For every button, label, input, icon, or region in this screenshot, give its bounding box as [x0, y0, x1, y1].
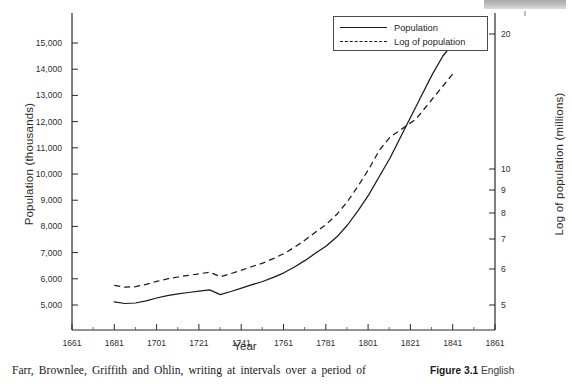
- caption-figure-rest: English: [481, 365, 514, 376]
- figure-page: 15,000 14,000 13,000 12,000 11,000 10,00…: [0, 0, 572, 384]
- right-tick-label: 8: [501, 208, 506, 218]
- chart-figure: 15,000 14,000 13,000 12,000 11,000 10,00…: [0, 0, 572, 358]
- legend-solid-line-swatch: [340, 23, 387, 32]
- left-axis-ticks: [72, 43, 78, 305]
- left-tick-label: 5,000: [18, 300, 62, 310]
- series-population-line: [114, 43, 453, 304]
- legend-item-log-population: Log of population: [340, 35, 465, 48]
- left-tick-label: 15,000: [18, 38, 62, 48]
- left-tick-label: 6,000: [18, 274, 62, 284]
- right-tick-label: 10: [501, 164, 511, 174]
- series-log-population-line: [114, 73, 453, 287]
- right-tick-label: 5: [501, 300, 506, 310]
- chart-plot: [0, 0, 572, 358]
- right-axis-ticks: [489, 34, 495, 305]
- caption-figure-number: Figure 3.1: [430, 365, 478, 376]
- x-axis-title: Year: [0, 340, 490, 352]
- right-tick-label: 6: [501, 264, 506, 274]
- right-tick-label: 7: [501, 234, 506, 244]
- legend-item-population: Population: [340, 21, 438, 34]
- legend-label: Log of population: [394, 37, 465, 47]
- chart-legend: Population Log of population: [333, 16, 488, 51]
- figure-caption: Farr, Brownlee, Griffith and Ohlin, writ…: [0, 362, 572, 384]
- legend-dashed-line-swatch: [340, 37, 387, 46]
- right-tick-label: 20: [501, 29, 511, 39]
- y-axis-title-left: Population (thousands): [23, 69, 35, 259]
- legend-label: Population: [394, 23, 438, 33]
- y-axis-title-right: Log of population (millions): [553, 57, 565, 271]
- caption-body-text: Farr, Brownlee, Griffith and Ohlin, writ…: [12, 364, 420, 377]
- caption-figure-label: Figure 3.1 English: [430, 365, 570, 376]
- right-tick-label: 9: [501, 185, 506, 195]
